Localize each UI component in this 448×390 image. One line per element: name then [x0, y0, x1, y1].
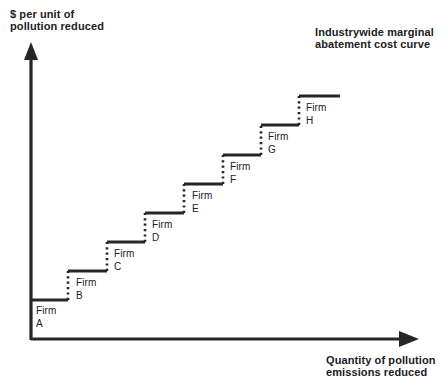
- step-label-firm-e: Firm E: [192, 189, 212, 215]
- step-curve-group: [31, 96, 340, 300]
- y-axis-arrowhead: [24, 42, 38, 60]
- step-label-firm-g: Firm G: [268, 130, 288, 156]
- step-label-firm-h: Firm H: [306, 101, 326, 127]
- step-label-firm-c: Firm C: [114, 247, 134, 273]
- x-axis-label: Quantity of pollution emissions reduced: [326, 354, 436, 378]
- chart-title: Industrywide marginal abatement cost cur…: [315, 26, 434, 50]
- marginal-abatement-cost-chart: $ per unit of pollution reduced Quantity…: [0, 0, 448, 390]
- step-label-firm-f: Firm F: [230, 160, 250, 186]
- step-label-firm-d: Firm D: [152, 218, 172, 244]
- step-label-firm-a: Firm A: [36, 304, 56, 330]
- y-axis-label: $ per unit of pollution reduced: [10, 8, 104, 32]
- step-label-firm-b: Firm B: [76, 276, 96, 302]
- x-axis-arrowhead: [399, 331, 419, 347]
- chart-canvas: [0, 0, 448, 390]
